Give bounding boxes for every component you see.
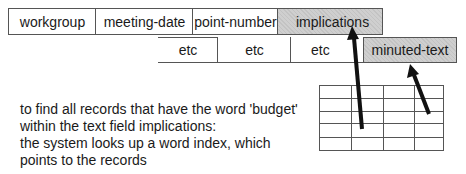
arrow-to-minuted-text (407, 64, 429, 114)
word-index-grid (319, 85, 444, 151)
arrow-to-implications (347, 26, 362, 129)
index-diagram (0, 0, 466, 174)
